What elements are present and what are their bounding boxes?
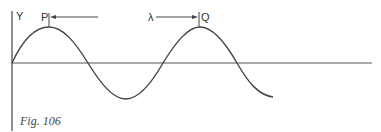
figure-caption: Fig. 106 (19, 114, 61, 128)
wavelength-label: λ (148, 11, 154, 23)
right-arrow-head-icon (192, 15, 198, 19)
wave-diagram: Y P λ Q Fig. 106 (0, 0, 381, 132)
point-q-label: Q (201, 11, 210, 23)
point-p-label: P (41, 11, 48, 23)
y-axis-label: Y (16, 10, 24, 22)
left-arrow-head-icon (50, 15, 56, 19)
